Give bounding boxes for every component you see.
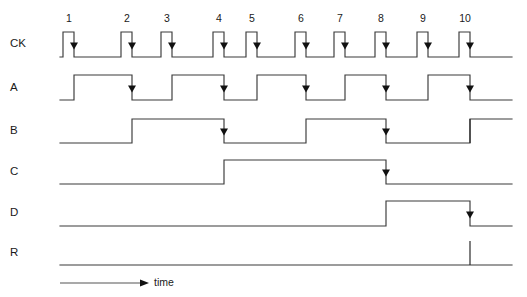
signal-label-c: C [10, 165, 18, 177]
signal-label-r: R [10, 246, 18, 258]
pulse-number-10: 10 [459, 12, 471, 24]
signal-label-a: A [10, 81, 18, 93]
diagram-background [0, 0, 527, 297]
time-axis-label: time [154, 276, 174, 288]
pulse-number-4: 4 [216, 12, 222, 24]
pulse-number-9: 9 [420, 12, 426, 24]
pulse-number-2: 2 [124, 12, 130, 24]
pulse-number-1: 1 [66, 12, 72, 24]
pulse-number-3: 3 [164, 12, 170, 24]
pulse-number-5: 5 [249, 12, 255, 24]
signal-label-d: D [10, 206, 18, 218]
timing-diagram: 12345678910 CKABCDR time [0, 0, 527, 297]
pulse-number-7: 7 [337, 12, 343, 24]
pulse-number-8: 8 [378, 12, 384, 24]
pulse-number-6: 6 [298, 12, 304, 24]
signal-label-ck: CK [10, 37, 26, 49]
signal-label-b: B [10, 124, 18, 136]
timing-diagram-canvas: 12345678910 CKABCDR time [0, 0, 527, 297]
